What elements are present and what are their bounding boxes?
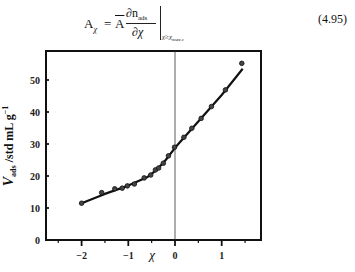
data-point (223, 88, 228, 93)
data-point (99, 190, 104, 195)
data-point (125, 184, 130, 189)
data-point (209, 104, 214, 109)
data-point (156, 166, 161, 171)
data-point (182, 135, 187, 140)
x-axis-label: χ (147, 247, 155, 262)
data-point (132, 182, 137, 187)
data-point (142, 176, 147, 181)
data-point (239, 61, 244, 66)
data-point (120, 186, 125, 191)
y-tick-label: 30 (30, 139, 40, 150)
y-tick-label: 50 (30, 75, 40, 86)
x-tick-label: 0 (173, 250, 178, 261)
y-axis-label: Vads /std mL g−1 (1, 106, 18, 186)
x-tick-label: −1 (123, 250, 134, 261)
y-tick-label: 40 (30, 107, 40, 118)
data-point (79, 201, 84, 206)
chart: −2−10101020304050χVads /std mL g−1 (0, 0, 355, 272)
data-point (190, 126, 195, 131)
data-point (161, 161, 166, 166)
data-point (148, 173, 153, 178)
y-tick-label: 20 (30, 171, 40, 182)
y-tick-label: 0 (35, 235, 40, 246)
data-point (112, 187, 117, 192)
y-tick-label: 10 (30, 203, 40, 214)
x-tick-label: −2 (76, 250, 87, 261)
data-point (166, 154, 171, 159)
plot-frame (46, 51, 261, 240)
data-point (172, 145, 177, 150)
x-tick-label: 1 (219, 250, 224, 261)
data-point (199, 116, 204, 121)
fit-line (82, 69, 243, 203)
